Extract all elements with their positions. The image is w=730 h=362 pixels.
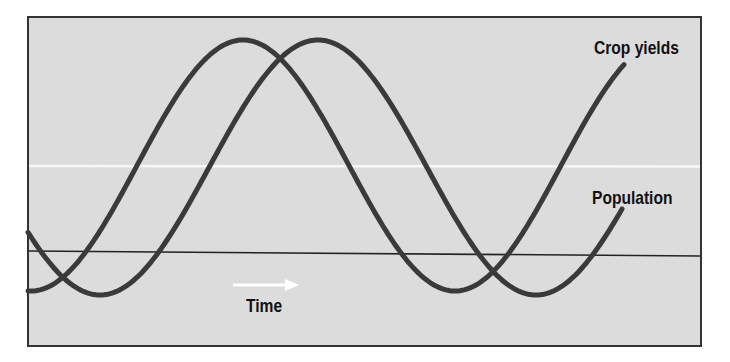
population-label: Population <box>592 187 672 209</box>
time-axis-label: Time <box>246 295 282 317</box>
white-divider-line <box>29 166 700 167</box>
crop-yields-label: Crop yields <box>594 37 679 59</box>
